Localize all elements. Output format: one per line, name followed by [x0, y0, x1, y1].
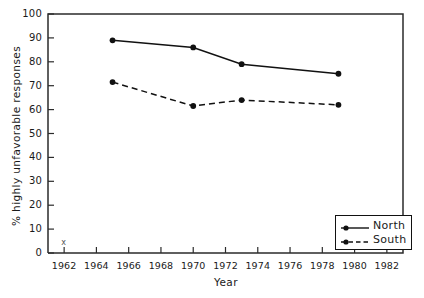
data-point-north-1979 [336, 71, 342, 77]
series-line-north [113, 40, 339, 73]
data-point-south-1979 [336, 102, 342, 108]
data-point-north-1973 [239, 61, 245, 67]
data-point-south-1973 [239, 97, 245, 103]
data-point-south-1970 [190, 103, 196, 109]
plot-canvas [0, 0, 424, 298]
data-point-north-1970 [190, 45, 196, 51]
data-point-north-1965 [110, 37, 116, 43]
legend-swatch-solid-line-icon [340, 219, 370, 231]
legend-label-north: North [373, 219, 405, 232]
data-series-group [110, 37, 342, 109]
legend-swatch-dashed-line-icon [340, 233, 370, 245]
chart-figure: % highly unfavorable responses Year 0102… [0, 0, 424, 298]
legend-item-south: South [340, 232, 406, 246]
data-point-south-1965 [110, 79, 116, 85]
legend-label-south: South [373, 233, 406, 246]
legend-box: North South [335, 215, 412, 250]
series-line-south [113, 82, 339, 106]
legend-item-north: North [340, 218, 406, 232]
